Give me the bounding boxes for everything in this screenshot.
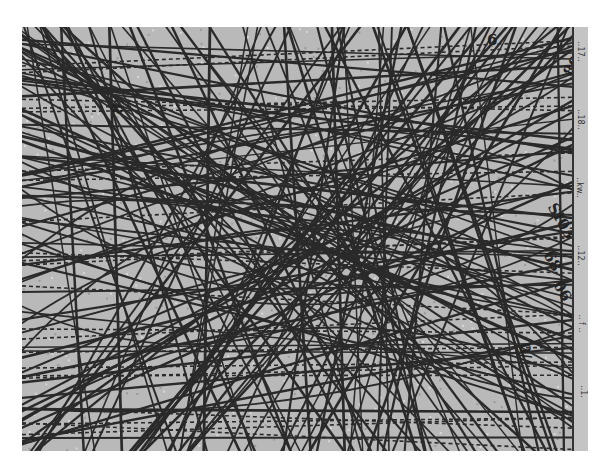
scanned-map: 6880SI0368060/ ..17....18....kw....12...… — [22, 27, 588, 451]
map-margin-strip: ..17....18....kw....12.... f ....1. — [572, 27, 588, 451]
margin-text: ..17.. — [575, 41, 584, 61]
margin-text: .. f .. — [576, 314, 585, 332]
map-label: 0/ — [515, 342, 535, 361]
route-lines — [22, 27, 588, 451]
margin-text: ..12.. — [575, 245, 584, 265]
margin-text: ..1. — [579, 385, 588, 398]
margin-text: ..18.. — [575, 109, 584, 129]
margin-text: ..kw.. — [575, 177, 584, 198]
map-label: 6 — [487, 31, 497, 49]
